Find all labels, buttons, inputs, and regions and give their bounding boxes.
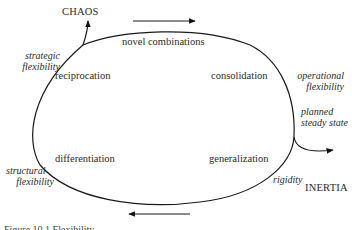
stage-reciprocation: reciprocation (55, 70, 110, 81)
inertia-label: INERTIA (305, 182, 348, 193)
operational-line2: flexibility (284, 81, 344, 92)
cycle-diagram (0, 0, 352, 230)
chaos-label: CHAOS (62, 6, 99, 17)
inertia-exit-arrow (294, 137, 333, 151)
structural-flexibility-label: structural flexibility (6, 165, 54, 187)
strategic-flexibility-label: strategic flexibility (22, 50, 60, 72)
operational-line1: operational (284, 70, 344, 81)
stage-differentiation: differentiation (55, 153, 115, 164)
strategic-line2: flexibility (22, 61, 60, 72)
chaos-exit-arrow (83, 21, 88, 45)
rigidity-label: rigidity (273, 174, 302, 185)
stage-novel-combinations: novel combinations (122, 36, 205, 47)
figure-caption: Figure 10.1 Flexibility (4, 224, 94, 230)
structural-line2: flexibility (6, 176, 54, 187)
stage-generalization: generalization (209, 153, 268, 164)
structural-line1: structural (6, 165, 54, 176)
planned-line1: planned (301, 106, 348, 117)
planned-steady-state-label: planned steady state (301, 106, 348, 128)
strategic-line1: strategic (22, 50, 60, 61)
stage-consolidation: consolidation (211, 70, 268, 81)
operational-flexibility-label: operational flexibility (284, 70, 344, 92)
cycle-ellipse (33, 32, 295, 205)
planned-line2: steady state (301, 117, 348, 128)
